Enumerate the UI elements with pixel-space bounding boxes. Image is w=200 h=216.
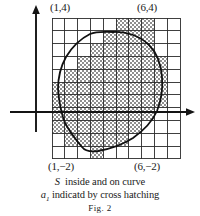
x-axis-arrow-icon: [186, 108, 195, 116]
figure-container: (1,4) (6,4) (1,−2) (6,−2) S inside and o…: [0, 0, 200, 216]
cross-hatched-region: [52, 18, 167, 159]
corner-label-top-right: (6,4): [137, 1, 157, 13]
figure-number-label: Fig. 2: [0, 203, 200, 213]
figure-caption-line-2: a1 indicatd by cross hatching: [0, 189, 200, 203]
corner-label-top-left: (1,4): [50, 1, 70, 13]
y-axis-arrow-icon: [32, 5, 40, 14]
figure-caption-line-1: S inside and on curve: [0, 176, 200, 187]
caption-text-1: inside and on curve: [65, 176, 145, 187]
set-symbol-a-subscript: 1: [46, 195, 49, 203]
corner-label-bottom-left: (1,−2): [48, 160, 74, 172]
corner-label-bottom-right: (6,−2): [134, 160, 160, 172]
caption-text-2: indicatd by cross hatching: [52, 189, 159, 200]
set-symbol-s: S: [55, 176, 60, 187]
